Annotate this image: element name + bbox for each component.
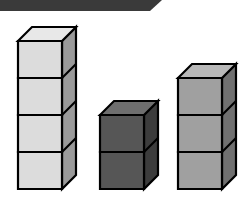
tower-middle-graphic bbox=[97, 98, 161, 192]
top-decorative-bar bbox=[0, 0, 162, 11]
cube-tower-middle bbox=[97, 98, 161, 192]
tower-right-front-face-cube-1 bbox=[178, 152, 222, 189]
tower-right-side-face bbox=[222, 64, 236, 189]
tower-right-front-face-cube-3 bbox=[178, 78, 222, 115]
cube-tower-left bbox=[15, 24, 79, 192]
tower-left-graphic bbox=[15, 24, 79, 192]
cube-tower-right bbox=[175, 61, 239, 192]
tower-left-front-face-cube-3 bbox=[18, 78, 62, 115]
tower-left-front-face-cube-4 bbox=[18, 41, 62, 78]
tower-middle-front-face-cube-2 bbox=[100, 115, 144, 152]
tower-right-graphic bbox=[175, 61, 239, 192]
cube-towers-scene bbox=[0, 0, 243, 197]
tower-left-front-face-cube-1 bbox=[18, 152, 62, 189]
tower-left-front-face-cube-2 bbox=[18, 115, 62, 152]
tower-right-front-face-cube-2 bbox=[178, 115, 222, 152]
tower-middle-front-face-cube-1 bbox=[100, 152, 144, 189]
